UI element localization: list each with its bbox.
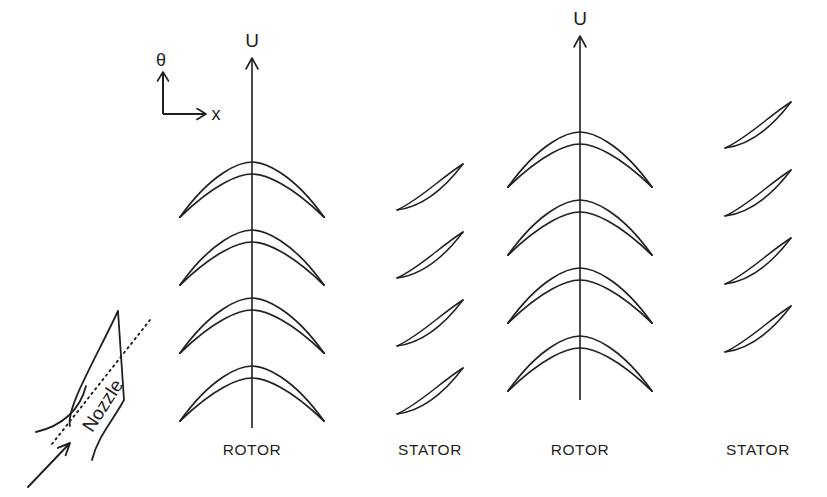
blade-row-labels-group: ROTORSTATORROTORSTATOR xyxy=(223,441,790,458)
blade-row-label-rotor: ROTOR xyxy=(551,441,610,458)
blade-row-label-rotor: ROTOR xyxy=(223,441,282,458)
blade xyxy=(725,306,791,352)
nozzle-detail-group: Nozzle xyxy=(28,311,150,487)
blade-speed-arrow-stage-2: U xyxy=(573,8,587,400)
blade xyxy=(397,164,463,210)
turbine-blade-row-diagram: θ x UU ROTORSTATORROTORSTATOR Nozzle xyxy=(0,0,827,497)
stator-blade-suction-surface xyxy=(397,164,463,210)
blade xyxy=(397,368,463,414)
blade xyxy=(725,170,791,216)
figure-canvas: θ x UU ROTORSTATORROTORSTATOR Nozzle xyxy=(0,0,827,497)
stator-blade-suction-surface xyxy=(397,368,463,414)
stator-blade-suction-surface xyxy=(725,306,791,352)
blade xyxy=(725,102,791,148)
blade-row-label-stator: STATOR xyxy=(398,441,462,458)
blade-speed-arrow-stage-1: U xyxy=(245,30,259,428)
stator-row-1 xyxy=(397,164,463,414)
stator-blade-suction-surface xyxy=(725,238,791,284)
blade xyxy=(397,232,463,278)
stator-blade-suction-surface xyxy=(725,102,791,148)
x-axis-label: x xyxy=(212,104,221,124)
stator-blade-suction-surface xyxy=(397,232,463,278)
blade-row-label-stator: STATOR xyxy=(726,441,790,458)
blade-speed-label: U xyxy=(245,30,259,51)
blade xyxy=(397,300,463,346)
inflow-arrow-icon xyxy=(28,443,70,487)
stator-row-2 xyxy=(725,102,791,352)
coordinate-axes-group: θ x xyxy=(156,50,221,124)
blade-speed-label: U xyxy=(573,8,587,29)
nozzle-label: Nozzle xyxy=(78,375,127,435)
blade xyxy=(725,238,791,284)
blade-speed-arrows-group: UU xyxy=(245,8,587,428)
blade-rows-group xyxy=(180,102,791,421)
theta-axis-label: θ xyxy=(156,50,166,70)
stator-blade-suction-surface xyxy=(725,170,791,216)
stator-blade-suction-surface xyxy=(397,300,463,346)
